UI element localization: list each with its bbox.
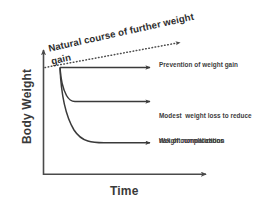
annotation-modest-weight-loss-line1: Modest weight loss to reduce <box>159 112 252 120</box>
weight-normalization-curve <box>60 68 150 143</box>
annotation-modest-weight-loss: Modest weight loss to reduce risk of com… <box>159 95 252 162</box>
y-axis-label: Body Weight <box>20 69 34 144</box>
annotation-prevention-of-weight-gain: Prevention of weight gain <box>159 61 238 69</box>
x-axis-label: Time <box>110 184 139 198</box>
annotation-weight-normalization: Weight normalization <box>159 137 225 145</box>
weight-management-diagram: Natural course of further weight gain Pr… <box>0 0 278 204</box>
modest-weight-loss-curve <box>60 68 150 102</box>
